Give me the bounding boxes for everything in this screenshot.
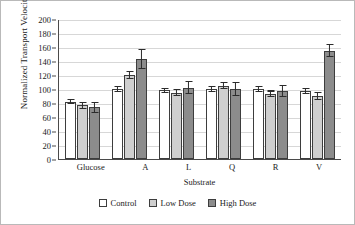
bar-slot — [136, 20, 147, 159]
error-bar — [138, 49, 145, 69]
error-bar-cap-top — [279, 85, 286, 86]
error-bar — [91, 102, 98, 113]
error-bar-cap-bottom — [161, 92, 168, 93]
bar-low[interactable] — [77, 105, 88, 159]
error-bar-cap-bottom — [232, 95, 239, 96]
bar-group — [159, 20, 194, 159]
bar-control[interactable] — [159, 90, 170, 159]
y-axis-tick-label: 0 — [47, 156, 51, 165]
error-bar — [279, 85, 286, 98]
bar-slot — [159, 20, 170, 159]
y-axis-tick-label: 180 — [38, 30, 51, 39]
error-bar-cap-top — [67, 99, 74, 100]
bar-group — [300, 20, 335, 159]
error-bar-cap-top — [314, 92, 321, 93]
error-bar — [126, 71, 133, 79]
bar-control[interactable] — [206, 89, 217, 159]
legend-label: Low Dose — [161, 198, 196, 208]
bar-control[interactable] — [300, 91, 311, 159]
error-bar-cap-top — [232, 82, 239, 83]
y-axis-tick-mark — [52, 132, 56, 133]
bar-slot — [77, 20, 88, 159]
bar-slot — [183, 20, 194, 159]
error-bar-cap-top — [173, 89, 180, 90]
bar-high[interactable] — [136, 59, 147, 159]
error-bar — [314, 92, 321, 100]
legend-item[interactable]: High Dose — [208, 198, 257, 208]
bar-low[interactable] — [171, 93, 182, 160]
error-bar — [208, 86, 215, 92]
error-bar-cap-top — [302, 88, 309, 89]
y-axis-tick-label: 120 — [38, 72, 51, 81]
bar-low[interactable] — [265, 94, 276, 159]
bar-high[interactable] — [277, 91, 288, 159]
y-axis-tick-mark — [52, 76, 56, 77]
plot-area — [58, 20, 341, 160]
x-axis-tick-label: Glucose — [77, 162, 105, 172]
bar-slot — [230, 20, 241, 159]
bar-group — [253, 20, 288, 159]
error-bar — [220, 82, 227, 89]
y-axis-tick-label: 60 — [43, 114, 52, 123]
error-bar — [232, 82, 239, 96]
error-bar-cap-bottom — [114, 91, 121, 92]
bar-control[interactable] — [112, 89, 123, 159]
x-axis-labels: GlucoseALQRV — [58, 162, 341, 172]
bar-high[interactable] — [324, 51, 335, 160]
error-bar-cap-bottom — [91, 112, 98, 113]
error-bar-cap-top — [326, 44, 333, 45]
y-axis-tick-mark — [52, 48, 56, 49]
error-bar-cap-bottom — [326, 56, 333, 57]
bar-slot — [89, 20, 100, 159]
bar-low[interactable] — [218, 86, 229, 160]
error-bar-cap-bottom — [138, 68, 145, 69]
bar-slot — [65, 20, 76, 159]
bar-high[interactable] — [89, 107, 100, 159]
error-bar-cap-bottom — [185, 93, 192, 94]
y-axis-tick-label: 160 — [38, 44, 51, 53]
error-bar — [79, 102, 86, 109]
bar-slot — [124, 20, 135, 159]
legend-item[interactable]: Control — [99, 198, 137, 208]
error-bar-cap-bottom — [79, 108, 86, 109]
bar-control[interactable] — [65, 102, 76, 159]
y-axis-tick-mark — [52, 146, 56, 147]
error-bar-cap-bottom — [255, 91, 262, 92]
y-axis-tick-mark — [52, 104, 56, 105]
error-bar-cap-bottom — [126, 78, 133, 79]
x-axis-tick-label: L — [186, 162, 191, 172]
error-bar-line — [141, 49, 142, 69]
bar-slot — [300, 20, 311, 159]
bar-slot — [206, 20, 217, 159]
error-bar-cap-bottom — [302, 93, 309, 94]
bar-high[interactable] — [230, 89, 241, 159]
error-bar-cap-top — [185, 81, 192, 82]
y-axis: 020406080100120140160180200 — [1, 20, 56, 160]
error-bar — [302, 88, 309, 94]
error-bar-cap-top — [267, 90, 274, 91]
chart-figure: Normalized Transport Velocity 0204060801… — [0, 0, 355, 225]
y-axis-tick-label: 200 — [38, 16, 51, 25]
y-axis-tick-label: 100 — [38, 86, 51, 95]
bar-slot — [312, 20, 323, 159]
error-bar-cap-top — [126, 71, 133, 72]
bar-low[interactable] — [312, 96, 323, 159]
bar-slot — [277, 20, 288, 159]
x-axis-tick-label: A — [142, 162, 148, 172]
x-axis-tick-label: R — [273, 162, 279, 172]
bar-slot — [324, 20, 335, 159]
bar-high[interactable] — [183, 88, 194, 159]
bar-group — [112, 20, 147, 159]
x-axis-tick-label: V — [316, 162, 322, 172]
y-axis-tick-mark — [52, 160, 56, 161]
error-bar-cap-top — [255, 86, 262, 87]
legend-label: Control — [111, 198, 137, 208]
error-bar-cap-top — [79, 102, 86, 103]
bar-low[interactable] — [124, 75, 135, 159]
y-axis-tick-mark — [52, 62, 56, 63]
y-axis-tick-mark — [52, 90, 56, 91]
bar-groups — [59, 20, 341, 159]
legend-item[interactable]: Low Dose — [149, 198, 196, 208]
bar-control[interactable] — [253, 89, 264, 159]
y-axis-tick-mark — [52, 34, 56, 35]
